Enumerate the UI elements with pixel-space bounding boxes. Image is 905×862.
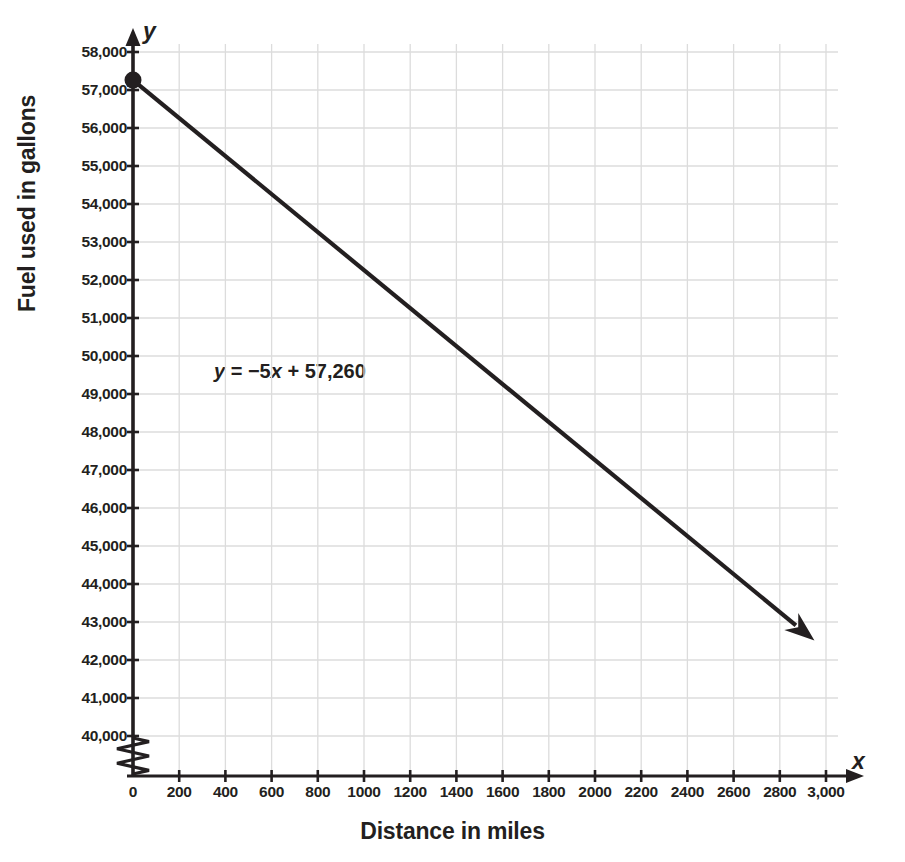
plot-area	[0, 0, 905, 862]
axis-lines	[126, 28, 865, 783]
data-line	[133, 80, 814, 641]
chart-figure: Fuel used in gallons Distance in miles y…	[0, 0, 905, 862]
data-point-marker	[125, 72, 142, 89]
gridlines	[133, 44, 838, 776]
